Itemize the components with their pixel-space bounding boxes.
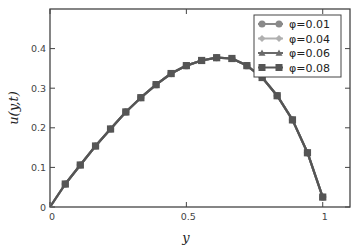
y-tick-label: 0 bbox=[40, 202, 46, 213]
square-marker-icon bbox=[259, 64, 266, 71]
y-tick-label: 0.1 bbox=[31, 162, 46, 173]
circle-marker-icon bbox=[259, 21, 266, 28]
square-marker-icon bbox=[77, 161, 84, 168]
x-axis-label: y bbox=[181, 230, 190, 245]
y-tick-label: 0.2 bbox=[31, 122, 46, 133]
line-chart: 00.10.20.30.4 00.51 y u(y,t) φ=0.01φ=0.0… bbox=[0, 0, 362, 251]
legend-label: φ=0.01 bbox=[289, 18, 330, 31]
square-marker-icon bbox=[122, 108, 129, 115]
square-marker-icon bbox=[319, 194, 326, 201]
square-marker-icon bbox=[213, 54, 220, 61]
square-marker-icon bbox=[243, 62, 250, 69]
x-tick-label: 0.5 bbox=[181, 211, 196, 222]
y-tick-label: 0.3 bbox=[31, 83, 46, 94]
square-marker-icon bbox=[198, 57, 205, 64]
square-marker-icon bbox=[167, 70, 174, 77]
square-marker-icon bbox=[304, 149, 311, 156]
square-marker-icon bbox=[183, 62, 190, 69]
square-marker-icon bbox=[152, 81, 159, 88]
square-marker-icon bbox=[289, 116, 296, 123]
square-marker-icon bbox=[228, 55, 235, 62]
legend: φ=0.01φ=0.04φ=0.06φ=0.08 bbox=[254, 15, 341, 77]
square-marker-icon bbox=[274, 92, 281, 99]
square-marker-icon bbox=[107, 125, 114, 132]
y-axis-label: u(y,t) bbox=[6, 91, 21, 125]
y-tick-label: 0.4 bbox=[31, 43, 46, 54]
square-marker-icon bbox=[92, 142, 99, 149]
legend-label: φ=0.08 bbox=[289, 62, 330, 75]
square-marker-icon bbox=[276, 64, 283, 71]
legend-label: φ=0.04 bbox=[289, 33, 330, 46]
x-tick-label: 0 bbox=[49, 211, 55, 222]
circle-marker-icon bbox=[276, 21, 283, 28]
legend-label: φ=0.06 bbox=[289, 47, 330, 60]
square-marker-icon bbox=[137, 94, 144, 101]
x-tick-label: 1 bbox=[322, 211, 328, 222]
square-marker-icon bbox=[62, 180, 69, 187]
